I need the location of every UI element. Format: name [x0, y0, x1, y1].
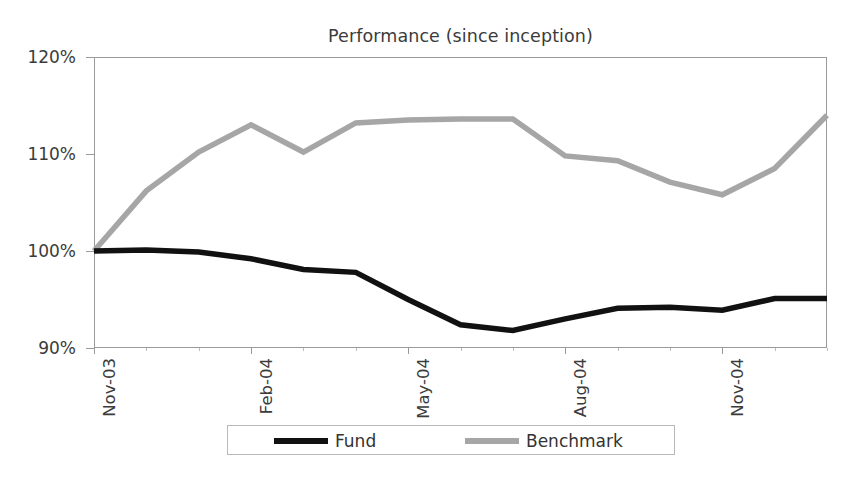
x-axis-tick: [722, 348, 723, 354]
x-axis-label: Feb-04: [257, 358, 276, 414]
x-axis-tick-minor: [775, 348, 776, 351]
x-axis-tick: [408, 348, 409, 354]
x-axis-label: Nov-03: [100, 358, 119, 417]
legend-label-benchmark: Benchmark: [526, 431, 623, 451]
legend-item-benchmark: Benchmark: [465, 426, 623, 456]
fund-line-swatch-icon: [274, 438, 328, 444]
benchmark-line-swatch-icon: [465, 438, 519, 444]
x-axis: Nov-03Feb-04May-04Aug-04Nov-04: [0, 0, 860, 484]
x-axis-tick-minor: [513, 348, 514, 351]
x-axis-label: Aug-04: [571, 358, 590, 417]
legend: Fund Benchmark: [227, 425, 675, 455]
x-axis-tick-minor: [199, 348, 200, 351]
x-axis-tick-minor: [618, 348, 619, 351]
x-axis-tick-minor: [146, 348, 147, 351]
x-axis-tick-minor: [356, 348, 357, 351]
x-axis-label: May-04: [414, 358, 433, 419]
x-axis-label: Nov-04: [728, 358, 747, 417]
x-axis-tick: [251, 348, 252, 354]
x-axis-tick-minor: [461, 348, 462, 351]
x-axis-tick-minor: [670, 348, 671, 351]
x-axis-tick-minor: [303, 348, 304, 351]
legend-item-fund: Fund: [274, 426, 376, 456]
x-axis-tick: [94, 348, 95, 354]
performance-chart: Performance (since inception) 120%110%10…: [0, 0, 860, 484]
x-axis-tick: [565, 348, 566, 354]
legend-label-fund: Fund: [335, 431, 376, 451]
x-axis-tick-minor: [827, 348, 828, 351]
